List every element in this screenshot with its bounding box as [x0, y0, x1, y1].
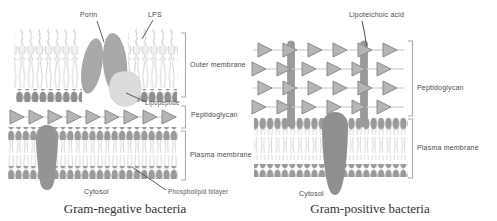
outer-membrane-label: Outer membrane: [190, 61, 246, 68]
lipoteichoic-acid-label: Lipoteichoic acid: [349, 11, 404, 18]
lipopeptide-shape: [110, 72, 141, 107]
peptidoglycan-row: [10, 110, 177, 124]
membrane-protein-shape: [322, 112, 348, 195]
porin-label: Porin: [80, 11, 97, 18]
cytosol-label-right: Cytosol: [299, 190, 324, 197]
gram-positive-diagram: [252, 21, 413, 195]
plasma-membrane-bilayer: [8, 127, 178, 179]
lipopeptide-label: Lipopeptide: [145, 100, 180, 106]
figure-bacteria-cell-envelopes: Porin LPS Outer membrane Lipopeptide Pep…: [0, 0, 497, 221]
peptidoglycan-mesh: [252, 43, 404, 114]
plasma-membrane-label-right: Plasma membrane: [417, 144, 479, 151]
cytosol-label-left: Cytosol: [84, 188, 109, 195]
peptidoglycan-label-left: Peptidoglycan: [191, 111, 238, 118]
diagram-canvas: [0, 0, 497, 221]
left-brackets: [181, 33, 186, 180]
gram-positive-caption: Gram-positive bacteria: [288, 202, 452, 215]
plasma-membrane-label-left: Plasma membrane: [190, 151, 252, 158]
right-brackets: [408, 41, 413, 178]
peptidoglycan-label-right: Peptidoglycan: [417, 84, 464, 91]
gram-negative-caption: Gram-negative bacteria: [40, 202, 210, 215]
lps-label: LPS: [148, 11, 162, 18]
phospholipid-bilayer-label: Phospholipid bilayer: [168, 189, 228, 195]
membrane-protein-shape: [36, 125, 58, 190]
